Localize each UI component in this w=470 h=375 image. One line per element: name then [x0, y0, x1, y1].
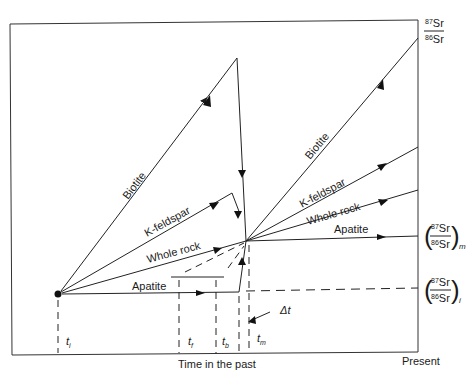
y-axis-label: 87Sr 86Sr [424, 17, 444, 45]
x-axis-label: Time in the past [178, 358, 256, 370]
ti-label: ti [66, 335, 71, 349]
whole-rock-present-arrow-icon [378, 199, 388, 206]
svg-text:87Sr: 87Sr [431, 222, 450, 234]
svg-text:87Sr: 87Sr [425, 17, 444, 29]
k-feldspar-present-arrow-icon [377, 163, 387, 171]
biotite-down-arrow-icon [238, 170, 246, 178]
svg-text:87Sr: 87Sr [431, 276, 450, 288]
tm-label: tm [257, 332, 266, 346]
plot-frame [10, 20, 418, 355]
initial-ratio-label: ( 87Sr 86Sr ) i [424, 275, 461, 305]
k-feldspar-label: K-feldspar [142, 204, 192, 239]
k-feldspar-down-arrow-icon [234, 211, 242, 219]
measured-ratio-label: ( 87Sr 86Sr ) m [424, 221, 466, 251]
tb-label: tb [222, 335, 229, 349]
biotite-label: Biotite [120, 170, 148, 202]
svg-text:m: m [459, 242, 466, 251]
apatite-present-arrow-icon [377, 234, 386, 240]
delta-t-label: Δt [279, 304, 291, 316]
whole-rock-arrow-icon [213, 247, 222, 254]
svg-text:i: i [459, 296, 461, 305]
apatite-present-label: Apatite [334, 223, 368, 235]
apatite-present-line [246, 236, 418, 241]
svg-text:86Sr: 86Sr [425, 33, 444, 45]
initial-ratio-dashed-line [246, 288, 418, 291]
sr-evolution-diagram: Biotite K-feldspar Whole rock Apatite Bi… [0, 0, 470, 375]
svg-text:86Sr: 86Sr [431, 238, 450, 250]
apatite-up-arrow-icon [238, 257, 246, 265]
apatite-label: Apatite [132, 280, 166, 292]
tf-label: tf [188, 335, 194, 349]
present-label: Present [402, 355, 440, 367]
initial-point [55, 291, 62, 298]
svg-text:86Sr: 86Sr [431, 292, 450, 304]
apatite-arrow-icon [196, 290, 205, 296]
